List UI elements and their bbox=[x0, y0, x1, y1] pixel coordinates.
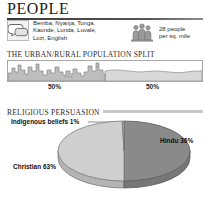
languages-text: Bemba, Nyanja, Tonga, Kaonde, Lunda, Luv… bbox=[33, 20, 96, 42]
languages-line-1: Bemba, Nyanja, Tonga, bbox=[33, 20, 95, 26]
pie-label-christian: Christian 63% bbox=[13, 163, 56, 170]
languages-line-3: Lozi, English bbox=[33, 35, 67, 41]
title-block: PEOPLE bbox=[7, 1, 203, 20]
density-line-1: 28 people bbox=[159, 26, 185, 32]
pie-label-indigenous: Indigenous beliefs 1% bbox=[11, 118, 79, 125]
urban-rural-labels: 50% 50% bbox=[7, 83, 203, 93]
urban-rural-chart bbox=[7, 60, 203, 82]
languages-line-2: Kaonde, Lunda, Luvale, bbox=[33, 27, 96, 33]
religion-pie-chart bbox=[0, 113, 206, 197]
people-infographic-panel: PEOPLE Bemba, Nyanja, Tonga, Kaonde, Lun… bbox=[0, 0, 206, 197]
density-text: 28 people per sq. mile bbox=[159, 26, 190, 41]
urban-rural-heading: THE URBAN/RURAL POPULATION SPLIT bbox=[7, 50, 155, 59]
people-group-icon bbox=[129, 22, 155, 43]
rural-percentage-label: 50% bbox=[146, 83, 159, 90]
speech-bubble-icon bbox=[7, 20, 29, 41]
page-title: PEOPLE bbox=[7, 1, 203, 17]
density-line-2: per sq. mile bbox=[159, 33, 190, 39]
urban-percentage-label: 50% bbox=[48, 83, 61, 90]
facts-row: Bemba, Nyanja, Tonga, Kaonde, Lunda, Luv… bbox=[7, 20, 203, 48]
fact-languages: Bemba, Nyanja, Tonga, Kaonde, Lunda, Luv… bbox=[7, 20, 96, 42]
fact-population-density: 28 people per sq. mile bbox=[129, 22, 190, 43]
pie-label-hindu: Hindu 36% bbox=[160, 137, 193, 144]
